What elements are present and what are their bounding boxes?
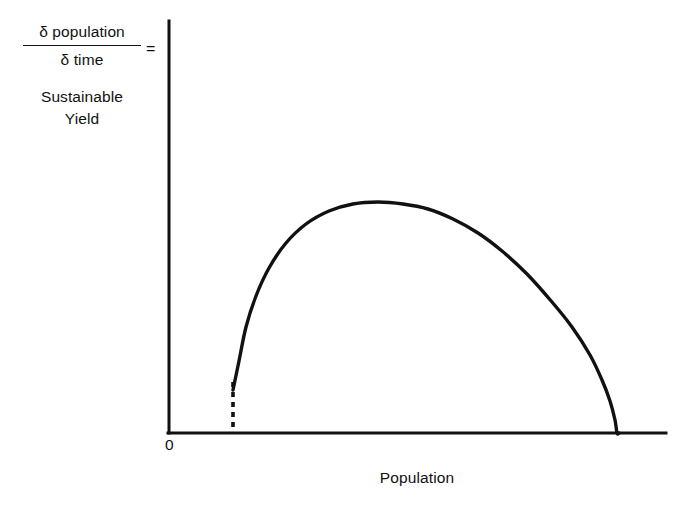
plot-area: [0, 0, 693, 513]
origin-label: 0: [165, 437, 174, 453]
x-axis-label: Population: [168, 470, 666, 486]
sustainable-yield-curve: [233, 202, 619, 434]
sustainable-yield-figure: δ population δ time Sustainable Yield = …: [0, 0, 693, 513]
